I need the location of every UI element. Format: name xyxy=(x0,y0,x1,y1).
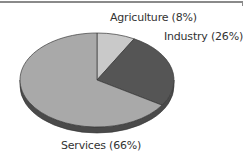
label-agriculture: Agriculture (8%) xyxy=(110,11,197,24)
pie-chart xyxy=(0,0,246,160)
label-industry: Industry (26%) xyxy=(164,30,243,43)
label-services: Services (66%) xyxy=(61,139,141,152)
